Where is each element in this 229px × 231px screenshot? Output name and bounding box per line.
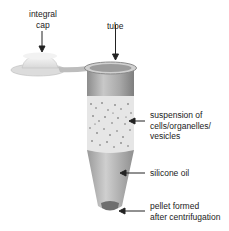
pellet-label: pellet formed after centrifugation <box>150 201 220 222</box>
integral-cap <box>11 53 88 77</box>
tube-body <box>85 62 137 211</box>
silicone-oil-label: silicone oil <box>150 168 189 179</box>
tube-label: tube <box>107 21 124 32</box>
suspension-label: suspension of cells/organelles/ vesicles <box>150 110 211 142</box>
integral-cap-label: integral cap <box>29 9 57 30</box>
